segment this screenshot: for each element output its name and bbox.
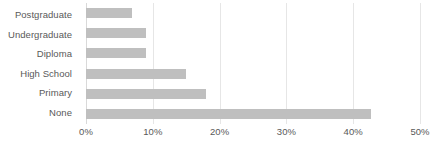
value-axis-tick-label: 20% (210, 126, 229, 138)
category-axis-label: High School (0, 68, 78, 79)
bar (86, 69, 186, 79)
value-axis: 0%10%20%30%40%50% (86, 126, 420, 142)
category-axis-label: Undergraduate (0, 29, 78, 40)
bar-row (86, 109, 420, 119)
category-axis-label: Postgraduate (0, 9, 78, 20)
bar-chart: Postgraduate Undergraduate Diploma High … (0, 0, 448, 153)
value-axis-tick-label: 10% (143, 126, 162, 138)
bar (86, 8, 132, 18)
plot-area (86, 3, 420, 124)
category-axis-label: Diploma (0, 48, 78, 59)
value-axis-tick-label: 50% (410, 126, 429, 138)
bar-row (86, 89, 420, 99)
category-axis-label: Primary (0, 87, 78, 98)
bar-row (86, 48, 420, 58)
bar-row (86, 8, 420, 18)
bar-row (86, 28, 420, 38)
category-axis-label: None (0, 107, 78, 118)
bar-series (86, 3, 420, 124)
bar (86, 28, 146, 38)
value-axis-tick-label: 30% (277, 126, 296, 138)
bar (86, 48, 146, 58)
category-axis: Postgraduate Undergraduate Diploma High … (0, 5, 78, 122)
value-axis-tick-label: 40% (344, 126, 363, 138)
bar (86, 109, 371, 119)
bar-row (86, 69, 420, 79)
bar (86, 89, 206, 99)
value-axis-tick-label: 0% (79, 126, 93, 138)
gridline (420, 3, 421, 124)
